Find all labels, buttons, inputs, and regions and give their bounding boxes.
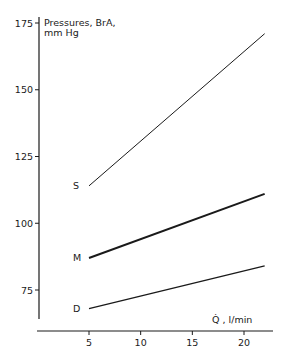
y-tick-label: 75 xyxy=(21,285,33,296)
x-ticks: 5101520 xyxy=(86,331,250,348)
series-lines: SMD xyxy=(73,34,265,314)
series-line-m xyxy=(89,194,265,258)
x-tick-label: 5 xyxy=(86,337,92,348)
y-axis-title-line2: mm Hg xyxy=(44,27,79,38)
y-tick-label: 150 xyxy=(15,84,33,95)
series-line-d xyxy=(89,266,265,309)
x-tick-label: 10 xyxy=(135,337,147,348)
x-tick-label: 15 xyxy=(186,337,198,348)
y-tick-label: 125 xyxy=(15,151,33,162)
series-label-d: D xyxy=(73,303,80,314)
y-ticks: 75100125150175 xyxy=(15,18,39,296)
pressure-flow-chart: 75100125150175 5101520 SMD Pressures, Br… xyxy=(0,0,282,363)
x-tick-label: 20 xyxy=(238,337,250,348)
series-label-m: M xyxy=(73,252,81,263)
y-tick-label: 175 xyxy=(15,18,33,29)
series-label-s: S xyxy=(73,180,79,191)
x-axis-title: Q̇ , l/min xyxy=(212,314,252,325)
y-tick-label: 100 xyxy=(15,218,33,229)
series-line-s xyxy=(89,34,265,186)
